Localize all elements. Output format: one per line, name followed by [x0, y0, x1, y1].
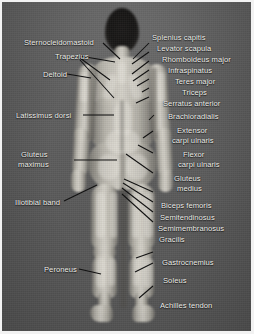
muscle-highlight [144, 192, 153, 238]
muscle-shadow [120, 188, 127, 308]
label-extensor-carpi-ulnaris-line2: carpi ulnaris [172, 136, 214, 145]
foot-right [132, 305, 155, 322]
label-semimembranosus: Semimembranosus [158, 224, 224, 233]
label-gastrocnemius: Gastrocnemius [162, 258, 214, 267]
muscle-highlight [157, 72, 165, 102]
muscle-highlight [96, 258, 106, 288]
label-infraspinatus: Infraspinatus [168, 66, 212, 75]
anatomy-figure: Sternocleidomastoid Trapezius Deltoid La… [0, 0, 254, 334]
muscle-highlight [126, 154, 148, 180]
muscle-highlight [80, 72, 88, 102]
label-serratus-anterior: Serratus anterior [163, 99, 220, 108]
foot-left [90, 305, 113, 322]
label-soleus: Soleus [163, 276, 187, 285]
hand-right [158, 170, 173, 192]
label-rhomboideus-major: Rhomboideus major [162, 55, 231, 64]
label-semitendinosus: Semitendinosus [160, 213, 215, 222]
muscle-highlight [110, 192, 117, 238]
label-latissimus-dorsi: Latissimus dorsi [16, 111, 71, 120]
muscle-highlight [133, 258, 140, 286]
muscle-highlight [143, 258, 153, 288]
label-gracilis: Gracilis [159, 235, 185, 244]
label-triceps: Triceps [182, 88, 207, 97]
muscle-shadow [120, 100, 124, 152]
muscle-highlight [98, 154, 120, 180]
muscle-highlight [96, 192, 105, 238]
hand-left [71, 170, 86, 192]
label-gluteus-maximus-line1: Gluteus [21, 150, 48, 159]
label-trapezius: Trapezius [55, 52, 89, 61]
muscle-shadow [120, 152, 125, 192]
photo-plate: Sternocleidomastoid Trapezius Deltoid La… [2, 2, 251, 331]
label-levator-scapula: Levator scapula [157, 44, 211, 53]
label-flexor-carpi-ulnaris-line2: carpi ulnaris [178, 160, 220, 169]
muscle-highlight [118, 62, 126, 84]
label-biceps-femoris: Biceps femoris [161, 201, 212, 210]
label-iliotibial-band: Iliotibial band [15, 198, 60, 207]
muscle-shadow [88, 68, 94, 140]
label-peroneus: Peroneus [44, 265, 77, 274]
label-gluteus-medius-line1: Gluteus [174, 174, 201, 183]
label-teres-major: Teres major [175, 77, 215, 86]
label-gluteus-maximus-line2: maximus [18, 160, 49, 169]
label-sternocleidomastoid: Sternocleidomastoid [24, 38, 94, 47]
label-splenius-capitis: Splenius capitis [152, 33, 206, 42]
muscle-highlight [132, 192, 139, 238]
label-brachioradialis: Brachioradialis [168, 112, 219, 121]
label-achilles-tendon: Achilles tendon [160, 301, 212, 310]
label-gluteus-medius-line2: medius [177, 184, 202, 193]
label-flexor-carpi-ulnaris-line1: Flexor [183, 150, 204, 159]
label-deltoid: Deltoid [43, 70, 67, 79]
muscle-highlight [108, 258, 115, 286]
label-extensor-carpi-ulnaris-line1: Extensor [177, 126, 207, 135]
muscle-shadow [151, 68, 157, 140]
